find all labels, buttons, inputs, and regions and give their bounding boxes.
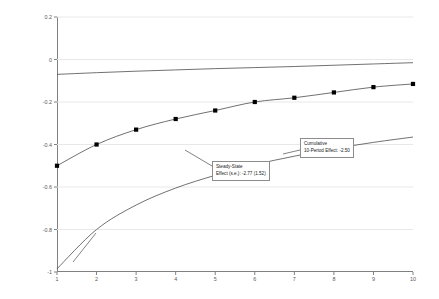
chart-figure: Budget Balance (%GDP) 0.2 0 -0.2 -0.4 -0… [0, 0, 439, 299]
x-tick-label: 9 [363, 276, 383, 282]
data-point-marker [55, 164, 59, 168]
x-tick-label: 3 [126, 276, 146, 282]
leader-line-steady-state [185, 150, 212, 166]
y-tick-marks [54, 17, 57, 272]
series-line-point-estimate [57, 84, 413, 166]
x-tick-label: 4 [166, 276, 186, 282]
data-point-marker [332, 90, 336, 94]
x-tick-label: 8 [324, 276, 344, 282]
data-point-marker [174, 117, 178, 121]
cumulative-callout-line2: 10-Period Effect: -2.50 [304, 148, 350, 155]
gridlines-group [57, 17, 413, 230]
data-point-marker [253, 100, 257, 104]
series-line-lower-confidence-band [57, 137, 413, 269]
x-tick-label: 6 [245, 276, 265, 282]
x-tick-marks [57, 272, 413, 275]
steady-state-callout-line1: Steady-State [216, 164, 266, 171]
x-tick-label: 10 [403, 276, 423, 282]
data-markers-group [55, 82, 415, 168]
x-tick-label: 5 [205, 276, 225, 282]
cumulative-effect-callout: Cumulative 10-Period Effect: -2.50 [300, 138, 354, 158]
data-point-marker [371, 85, 375, 89]
x-tick-label: 2 [87, 276, 107, 282]
chart-canvas [0, 0, 439, 299]
leader-line-lower-band [73, 233, 96, 262]
leader-line-cumulative [283, 150, 300, 154]
cumulative-callout-line1: Cumulative [304, 141, 350, 148]
series-line-upper-confidence-band [57, 63, 413, 75]
steady-state-callout-line2: Effect (s.e.): -2.77 (1.52) [216, 171, 266, 178]
x-tick-label: 1 [47, 276, 67, 282]
data-point-marker [213, 108, 217, 112]
data-point-marker [411, 82, 415, 86]
steady-state-callout: Steady-State Effect (s.e.): -2.77 (1.52) [212, 161, 270, 181]
data-point-marker [94, 142, 98, 146]
data-point-marker [292, 96, 296, 100]
x-tick-label: 7 [284, 276, 304, 282]
data-point-marker [134, 128, 138, 132]
